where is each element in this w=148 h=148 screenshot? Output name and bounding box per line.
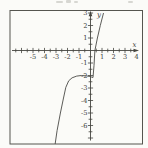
scan-artifact: [66, 0, 71, 3]
axes: [12, 11, 139, 141]
x-tick-label: -3: [53, 53, 59, 61]
y-tick-label: -1: [81, 59, 87, 67]
x-tick-label: 1: [100, 53, 104, 61]
x-axis-arrowhead: [134, 49, 140, 53]
x-axis-label: x: [133, 41, 137, 49]
graph-canvas: -5-4-3-2-11234321-1-2-3-4-5-6 x y: [0, 0, 148, 148]
scanned-figure: -5-4-3-2-11234321-1-2-3-4-5-6 x y: [0, 0, 148, 148]
x-tick-label: -4: [41, 53, 47, 61]
function-curve: [55, 13, 103, 144]
x-tick-label: -2: [64, 53, 70, 61]
x-tick-label: 4: [134, 53, 138, 61]
y-tick-label: 1: [83, 34, 87, 42]
x-tick-label: 2: [111, 53, 115, 61]
y-tick-label: -6: [81, 122, 87, 130]
y-axis-label: y: [96, 11, 102, 19]
y-tick-label: -3: [81, 84, 87, 92]
y-tick-label: -5: [81, 109, 87, 117]
plot-frame: [10, 11, 143, 145]
y-tick-label: 3: [83, 9, 87, 17]
axis-tick-labels: -5-4-3-2-11234321-1-2-3-4-5-6: [30, 9, 139, 130]
scan-artifact: [74, 1, 78, 3]
axis-ticks: [16, 13, 131, 138]
x-tick-label: 3: [123, 53, 127, 61]
x-tick-label: -5: [30, 53, 36, 61]
scan-artifact: [128, 1, 133, 3]
y-axis-arrowhead: [89, 11, 93, 16]
y-tick-label: 2: [83, 22, 87, 30]
y-tick-label: -4: [81, 97, 87, 105]
scan-artifact: [56, 1, 63, 3]
